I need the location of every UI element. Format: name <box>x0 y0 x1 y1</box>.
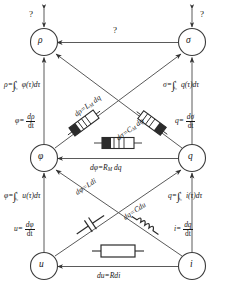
sigma-integral-lhs: σ= <box>163 80 172 89</box>
node-label-rho: ρ <box>38 36 43 46</box>
node-label-q: q <box>188 152 193 162</box>
components-layer <box>0 0 236 288</box>
equation-rho-integral: ρ=∫tt₀φ(τ)dτ <box>4 81 40 90</box>
equation-u-derivative: u= dφdt <box>14 221 35 238</box>
equation-phi-integral: φ=∫tt₀u(τ)dτ <box>4 192 40 201</box>
unknown-mark-right: ? <box>200 10 204 19</box>
integral-limits: tt₀ <box>174 81 181 90</box>
node-label-phi: φ <box>38 152 43 162</box>
rho-integral-lhs: ρ= <box>4 80 13 89</box>
sigma-integrand: q(τ)dτ <box>181 80 199 89</box>
memristor-eq-text: dφ=R <box>90 163 108 172</box>
unknown-mark-middle: ? <box>113 26 117 35</box>
unknown-mark-left: ? <box>29 10 33 19</box>
resistor-symbol <box>92 245 144 257</box>
node-label-sigma: σ <box>186 36 191 46</box>
i-derivative-lhs: i= <box>174 224 181 233</box>
integral-limits: tt₀ <box>15 81 22 90</box>
equation-resistor: du=Rdi <box>97 272 120 280</box>
phi-integral-lhs: φ= <box>4 191 13 200</box>
relations-diagram: ρ σ φ q u i ? ? ? ρ=∫tt₀φ(τ)dτ σ=∫tt₀q(τ… <box>0 0 236 288</box>
integral-limits: tt₀ <box>179 192 186 201</box>
equation-i-derivative: i= dqdt <box>174 221 193 238</box>
u-derivative-fraction: dφdt <box>25 221 35 238</box>
phi-derivative-fraction: dρdt <box>26 113 35 130</box>
phi-integrand: u(τ)dτ <box>22 191 40 200</box>
q-derivative-lhs: q= <box>175 116 184 125</box>
integral-limits: tt₀ <box>15 192 22 201</box>
i-derivative-fraction: dqdt <box>183 221 192 238</box>
q-derivative-fraction: dσdt <box>186 113 195 130</box>
q-integrand: i(τ)dτ <box>186 191 202 200</box>
equation-phi-derivative: φ= dρdt <box>15 113 35 130</box>
inductor-symbol <box>132 214 160 235</box>
node-label-i: i <box>190 260 193 270</box>
resistor-eq-text: du=Rdi <box>97 271 120 280</box>
rho-integrand: φ(τ)dτ <box>22 80 41 89</box>
capacitor-symbol <box>73 210 108 240</box>
equation-memristor: dφ=RM dq <box>90 164 122 172</box>
q-integral-lhs: q= <box>168 191 177 200</box>
memristor-eq-rest: dq <box>112 163 122 172</box>
equation-sigma-integral: σ=∫tt₀q(τ)dτ <box>163 81 199 90</box>
u-derivative-lhs: u= <box>14 224 23 233</box>
phi-derivative-lhs: φ= <box>15 116 24 125</box>
equation-q-derivative: q= dσdt <box>175 113 195 130</box>
equation-q-integral: q=∫tt₀i(τ)dτ <box>168 192 202 201</box>
node-label-u: u <box>39 260 44 270</box>
